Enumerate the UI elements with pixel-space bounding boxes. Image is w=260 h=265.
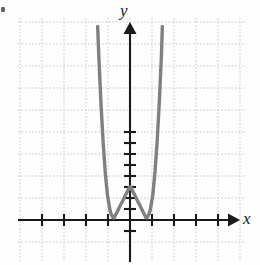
graph-figure: y x: [0, 0, 260, 265]
y-axis-arrow-icon: [124, 22, 137, 34]
y-axis-label: y: [120, 2, 128, 19]
x-axis-arrow-icon: [228, 214, 240, 227]
grid-lines: [18, 18, 246, 262]
x-axis-label: x: [243, 210, 251, 227]
coordinate-plane: [0, 0, 260, 265]
